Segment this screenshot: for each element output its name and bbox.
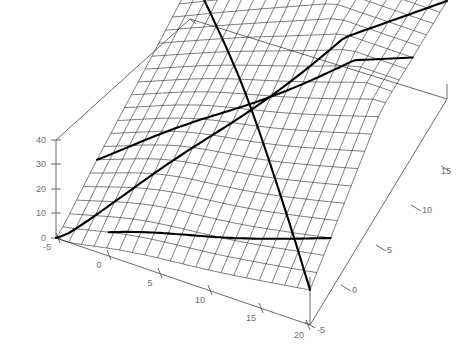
surface-plot-canvas: 40 30 20 10 0 -5 0 5 10 15 20: [0, 0, 456, 361]
x-tick-label: 15: [246, 313, 256, 323]
z-tick-label: 20: [36, 184, 46, 194]
y-tick-label: 0: [352, 285, 357, 295]
y-tick-label: -5: [317, 325, 325, 335]
x-tick-label: 5: [147, 278, 152, 288]
y-tick-label: 10: [422, 205, 432, 215]
z-axis-tick-labels: 40 30 20 10 0: [36, 135, 46, 243]
y-tick-label: 15: [441, 166, 451, 176]
x-tick-label: 10: [195, 295, 205, 305]
y-tick-label: 5: [387, 245, 392, 255]
x-tick-label: 20: [294, 330, 304, 340]
surface-plot-figure: 40 30 20 10 0 -5 0 5 10 15 20: [0, 0, 456, 361]
x-axis-tick-labels: -5 0 5 10 15 20: [43, 242, 304, 340]
z-tick-label: 30: [36, 159, 46, 169]
y-axis-tick-labels: -5 0 5 10 15: [317, 166, 451, 335]
z-tick-label: 10: [36, 208, 46, 218]
x-tick-label: -5: [43, 242, 51, 252]
x-tick-label: 0: [96, 260, 101, 270]
z-tick-label: 40: [36, 135, 46, 145]
